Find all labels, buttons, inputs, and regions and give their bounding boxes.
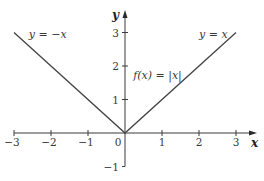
x-tick-label: 3: [233, 136, 240, 148]
y-tick-label: 2: [112, 60, 119, 72]
x-axis-label: x: [250, 136, 259, 150]
x-axis-arrow-icon: [249, 131, 257, 136]
absolute-value-chart: x y −3−2−10123 −1123 y = −xy = xf(x) = |…: [0, 0, 264, 181]
annotation-f-of-x: f(x) = |x|: [132, 69, 182, 83]
x-tick-label: −1: [78, 136, 93, 148]
x-tick-label: −2: [41, 136, 56, 148]
annotation-y-equals-x: y = x: [198, 28, 228, 41]
y-tick-label: 1: [112, 94, 119, 106]
x-tick-label: 2: [196, 136, 203, 148]
annotation-y-equals-neg-x: y = −x: [28, 28, 68, 41]
y-axis-label: y: [111, 8, 120, 22]
x-tick-label: 1: [159, 136, 166, 148]
y-axis-arrow-icon: [123, 10, 128, 18]
y-tick-label: −1: [104, 161, 119, 173]
annotations: y = −xy = xf(x) = |x|: [28, 28, 229, 84]
y-ticks: −1123: [104, 27, 128, 173]
x-tick-label: 0: [115, 136, 122, 148]
x-tick-label: −3: [4, 136, 19, 148]
y-tick-label: 3: [112, 27, 119, 39]
